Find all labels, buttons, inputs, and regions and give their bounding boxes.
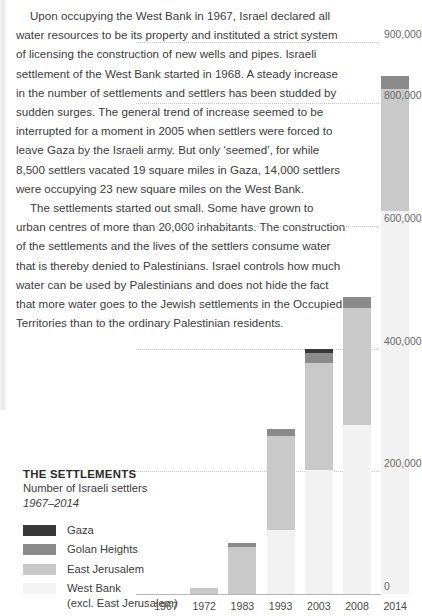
x-tick-label-2003: 2003 [299,600,339,612]
bar-segment-2014-golan-heights [381,76,409,89]
bar-segment-2003-gaza [305,349,333,354]
gridline-400000 [136,349,379,350]
legend-swatch-golan-heights [23,544,56,555]
legend-label-west-bank: West Bank [67,582,121,594]
bar-segment-1983-east-jerusalem [228,547,256,594]
y-tick-label-200000: 200,000 [384,458,422,469]
bar-segment-1993-west-bank [267,530,295,594]
legend-item-gaza: Gaza [23,523,203,538]
chart-subtitle: Number of Israeli settlers [23,481,203,496]
y-tick-label-400000: 400,000 [384,336,422,347]
chart-year-range: 1967–2014 [23,496,203,511]
bar-2003 [305,349,333,594]
bar-segment-1993-golan-heights [267,429,295,436]
bar-segment-2003-east-jerusalem [305,363,333,470]
bar-segment-1983-golan-heights [228,543,256,547]
bar-segment-2014-west-bank [381,211,409,594]
bar-segment-2008-golan-heights [343,297,371,308]
x-tick-label-1983: 1983 [222,600,262,612]
legend-swatch-gaza [23,525,56,536]
page-gutter [0,0,7,410]
bar-2014 [381,76,409,594]
y-tick-label-800000: 800,000 [384,90,422,101]
legend-label-east-jerusalem: East Jerusalem [67,563,144,575]
bar-1983 [228,543,256,594]
legend-label-gaza: Gaza [67,524,94,536]
legend-sublabel-west-bank: (excl. East Jerusalem) [67,596,178,611]
bar-segment-2008-east-jerusalem [343,308,371,425]
bar-segment-1993-east-jerusalem [267,436,295,529]
bar-2008 [343,297,371,594]
legend-swatch-west-bank [23,583,56,594]
bar-segment-2003-golan-heights [305,353,333,363]
x-tick-label-2008: 2008 [337,600,377,612]
bar-segment-2003-west-bank [305,470,333,594]
chart-legend-block: THE SETTLEMENTS Number of Israeli settle… [23,468,203,615]
legend-swatch-east-jerusalem [23,564,56,575]
x-tick-label-1993: 1993 [261,600,301,612]
legend-item-west-bank: West Bank (excl. East Jerusalem) [23,581,203,610]
bar-segment-2008-west-bank [343,425,371,594]
bar-segment-2014-east-jerusalem [381,89,409,212]
y-tick-label-600000: 600,000 [384,213,422,224]
legend-item-golan-heights: Golan Heights [23,542,203,557]
y-tick-label-900000: 900,000 [384,29,422,40]
article-paragraph-2: The settlements started out small. Some … [16,198,346,332]
article-paragraph-1: Upon occupying the West Bank in 1967, Is… [16,6,346,198]
legend-item-east-jerusalem: East Jerusalem [23,562,203,577]
legend-label-golan-heights: Golan Heights [67,543,138,555]
chart-title: THE SETTLEMENTS [23,468,203,480]
y-tick-label-0: 0 [384,581,390,592]
x-tick-label-2014: 2014 [375,600,415,612]
bar-1993 [267,429,295,594]
article-body: Upon occupying the West Bank in 1967, Is… [16,6,346,332]
